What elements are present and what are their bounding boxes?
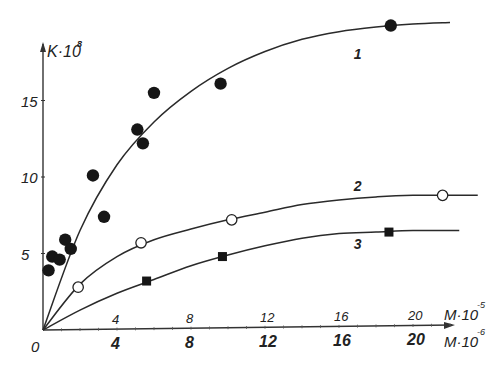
x-axis-title-lower: M·10 (444, 333, 479, 350)
filled-square-marker (218, 252, 227, 261)
chart-plot: 5101544881212161620200K·108M·10-5M·10-61… (0, 0, 502, 371)
x-axis-title-upper: M·10 (444, 306, 479, 323)
filled-circle-marker (53, 253, 65, 265)
x-tick-label-lower: 12 (259, 333, 277, 350)
filled-circle-marker (214, 77, 226, 89)
y-tick-label: 5 (21, 246, 30, 263)
x-axis-exponent-upper: -5 (477, 300, 486, 310)
x-tick-label-lower: 16 (333, 332, 351, 349)
y-tick-label: 15 (21, 93, 38, 110)
y-axis-title: K·10 (47, 43, 81, 60)
x-tick-label-upper: 20 (407, 308, 423, 323)
filled-square-marker (142, 277, 151, 286)
open-circle-marker (73, 282, 83, 292)
x-tick-label-lower: 20 (406, 331, 425, 348)
y-tick-label: 10 (21, 169, 38, 186)
x-tick-label-lower: 8 (185, 334, 194, 351)
filled-circle-marker (148, 87, 160, 99)
x-tick-label-lower: 4 (110, 335, 120, 352)
filled-circle-marker (42, 264, 54, 276)
series-2-label: 2 (353, 178, 362, 194)
series-1-curve (43, 22, 450, 330)
open-circle-marker (136, 238, 146, 248)
filled-square-marker (384, 228, 393, 237)
x-axis-arrow-icon (444, 322, 455, 329)
x-tick-label-upper: 4 (112, 312, 119, 327)
y-axis-exponent: 8 (77, 39, 82, 49)
filled-circle-marker (385, 19, 397, 31)
filled-circle-marker (137, 137, 149, 149)
filled-circle-marker (98, 211, 110, 223)
open-circle-marker (437, 190, 447, 200)
series-1-label: 1 (354, 46, 362, 62)
open-circle-marker (227, 215, 237, 225)
x-tick-label-upper: 12 (260, 310, 275, 325)
axis-labels: 5101544881212161620200K·108M·10-5M·10-61… (21, 39, 486, 355)
x-tick-label-upper: 16 (334, 309, 349, 324)
x-axis-line (43, 325, 452, 330)
x-tick-label-upper: 8 (186, 311, 194, 326)
filled-circle-marker (65, 243, 77, 255)
y-axis-arrow-icon (40, 42, 46, 52)
curves (43, 22, 478, 330)
series-3-label: 3 (354, 236, 362, 252)
filled-circle-marker (87, 169, 99, 181)
series-3-curve (43, 230, 459, 330)
origin-label: 0 (31, 338, 40, 355)
filled-circle-marker (131, 123, 143, 135)
x-axis-exponent-lower: -6 (477, 327, 485, 337)
